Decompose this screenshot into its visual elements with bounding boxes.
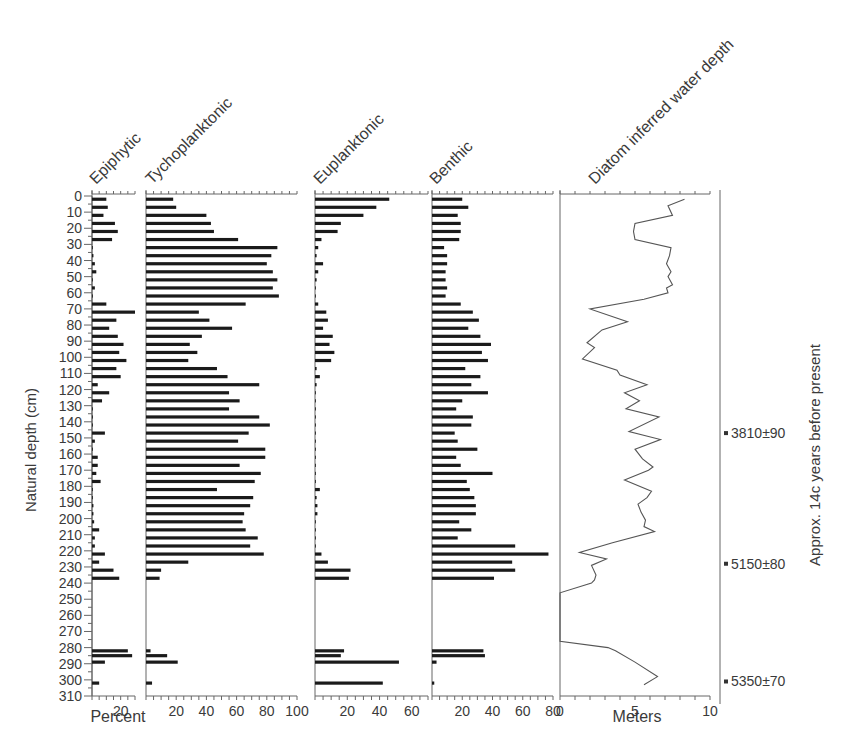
depth-bar (315, 254, 317, 257)
depth-bar (315, 552, 321, 555)
depth-tick-label: 90 (66, 333, 82, 349)
depth-bar (146, 504, 250, 507)
depth-bar (315, 456, 316, 459)
depth-bar (432, 681, 434, 684)
x-tick-label: 100 (285, 703, 309, 719)
depth-bar (146, 351, 197, 354)
depth-bar (92, 464, 98, 467)
euplanktonic-panel: 204060 (315, 190, 428, 719)
x-tick-label: 40 (199, 703, 215, 719)
depth-tick-label: 230 (59, 559, 83, 575)
depth-bar (146, 367, 217, 370)
panel-title-euplanktonic: Euplanktonic (310, 110, 387, 187)
depth-bar (146, 278, 277, 281)
depth-bar (146, 262, 267, 265)
depth-bar (432, 504, 476, 507)
depth-bar (432, 431, 455, 434)
depth-bar (92, 561, 99, 564)
depth-bar (146, 327, 232, 330)
svg-text:0: 0 (556, 703, 564, 719)
depth-bar (315, 415, 316, 418)
depth-bar (315, 464, 316, 467)
x-tick-label: 20 (168, 703, 184, 719)
depth-bar (146, 206, 176, 209)
depth-bar (146, 569, 161, 572)
depth-bar (432, 262, 447, 265)
depth-bar (146, 407, 229, 410)
x-tick-label: 20 (339, 703, 355, 719)
depth-bar (92, 206, 108, 209)
depth-bar (432, 302, 461, 305)
depth-bar (432, 456, 456, 459)
depth-bar (315, 561, 328, 564)
panel-title-epiphytic: Epiphytic (86, 129, 144, 187)
depth-bar (432, 254, 447, 257)
depth-bar (315, 335, 333, 338)
depth-bar (432, 294, 446, 297)
depth-tick-label: 20 (66, 220, 82, 236)
depth-bar (146, 302, 246, 305)
depth-bar (146, 448, 265, 451)
depth-bar (146, 343, 190, 346)
depth-bar (315, 544, 316, 547)
depth-tick-label: 180 (59, 478, 83, 494)
depth-bar (432, 278, 446, 281)
panels: 2020406080100204060204060805100 (92, 190, 720, 719)
depth-bar (146, 649, 151, 652)
depth-bar (315, 270, 318, 273)
depth-axis: 0102030405060708090100110120130140150160… (59, 188, 92, 704)
x-tick-label: 60 (229, 703, 245, 719)
depth-bar (432, 577, 494, 580)
benthic-panel: 20406080 (432, 190, 561, 719)
depth-bar (146, 359, 188, 362)
depth-bar (92, 552, 105, 555)
depth-bar (432, 311, 473, 314)
x-tick-label: 40 (372, 703, 388, 719)
depth-bar (315, 654, 341, 657)
depth-bar (315, 399, 316, 402)
panel-title-tychoplanktonic: Tychoplanktonic (142, 94, 235, 187)
depth-bar (92, 431, 105, 434)
x-tick-label: 80 (259, 703, 275, 719)
depth-bar (315, 286, 316, 289)
depth-bar (146, 480, 255, 483)
depth-bar (432, 246, 444, 249)
depth-bar (315, 577, 349, 580)
depth-bar (92, 577, 119, 580)
depth-bar (315, 440, 316, 443)
depth-bar (432, 440, 458, 443)
x-tick-label: 20 (454, 703, 470, 719)
depth-bar (92, 528, 99, 531)
depth-bar (146, 319, 209, 322)
right-axis-label: Approx. 14c years before present (806, 343, 823, 566)
depth-bar (146, 561, 188, 564)
depth-bar (92, 391, 109, 394)
depth-tick-label: 200 (59, 511, 83, 527)
depth-bar (92, 383, 98, 386)
depth-bar (432, 359, 488, 362)
depth-bar (92, 661, 105, 664)
depth-bar (432, 528, 471, 531)
depth-tick-label: 80 (66, 317, 82, 333)
depth-bar (92, 351, 119, 354)
depth-bar (92, 440, 95, 443)
depth-bar (146, 536, 258, 539)
depth-bar (432, 654, 485, 657)
depth-bar (315, 238, 321, 241)
depth-bar (92, 198, 106, 201)
depth-bar (432, 206, 468, 209)
date-label: 5350±70 (731, 673, 786, 689)
depth-bar (146, 456, 265, 459)
depth-bar (315, 472, 316, 475)
depth-bar (432, 464, 461, 467)
depth-bar (92, 238, 112, 241)
depth-bar (146, 472, 261, 475)
depth-bar (315, 423, 316, 426)
depth-bar (92, 496, 93, 499)
depth-bar (146, 311, 199, 314)
depth-bar (92, 262, 95, 265)
depth-bar (146, 415, 259, 418)
depth-bar (432, 327, 468, 330)
depth-bar (315, 278, 317, 281)
depth-bar (315, 327, 323, 330)
